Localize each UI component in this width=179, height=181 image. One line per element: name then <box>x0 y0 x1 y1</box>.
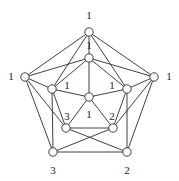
graph-vertex <box>123 85 131 93</box>
graph-vertex <box>85 93 93 101</box>
graph-edge <box>89 58 127 89</box>
graph-edge <box>89 89 127 97</box>
graph-edge <box>25 58 89 77</box>
graph-edge <box>25 32 89 77</box>
vertex-label: 1 <box>8 71 14 82</box>
vertex-label: 1 <box>166 71 172 82</box>
graph-edge <box>53 128 113 152</box>
graph-edge <box>66 128 127 152</box>
vertex-label: 1 <box>86 40 92 51</box>
graph-edge <box>25 77 66 128</box>
graph-vertex <box>48 85 56 93</box>
graph-edge <box>52 89 53 152</box>
graph-vertex <box>62 124 70 132</box>
graph-vertex <box>123 148 131 156</box>
vertex-label: 1 <box>86 10 92 21</box>
graph-vertex <box>49 148 57 156</box>
graph-vertex <box>109 124 117 132</box>
graph-edge <box>113 89 127 128</box>
graph-vertex <box>85 54 93 62</box>
vertex-label: 2 <box>124 165 130 176</box>
graph-edge <box>52 32 89 89</box>
graph-edge <box>89 32 154 77</box>
graph-vertex <box>21 73 29 81</box>
vertex-label: 1 <box>86 109 92 120</box>
graph-edge <box>52 89 89 97</box>
graph-figure: 11132111321 <box>0 0 179 181</box>
vertex-label: 1 <box>109 80 115 91</box>
vertex-label: 2 <box>109 111 115 122</box>
vertex-label: 3 <box>50 165 56 176</box>
graph-canvas <box>0 0 179 181</box>
graph-edge <box>89 58 154 77</box>
graph-edge <box>113 77 154 128</box>
graph-vertex <box>85 28 93 36</box>
vertex-label: 3 <box>64 111 70 122</box>
graph-edge <box>52 58 89 89</box>
graph-edge <box>52 89 66 128</box>
vertex-label: 1 <box>64 80 70 91</box>
graph-vertex <box>150 73 158 81</box>
graph-edge <box>89 32 127 89</box>
